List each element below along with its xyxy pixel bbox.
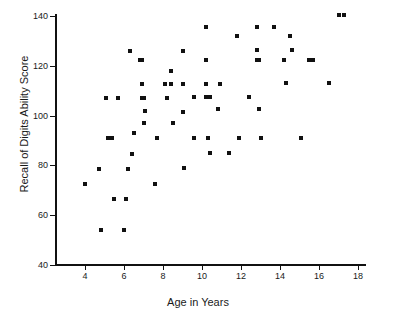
y-tick-label: 120 bbox=[33, 62, 48, 71]
data-point bbox=[165, 96, 169, 100]
data-point bbox=[110, 136, 114, 140]
scatter-plot-figure: 406080100120140 4681012141618 Recall of … bbox=[0, 0, 396, 322]
data-point bbox=[169, 82, 173, 86]
x-tick-mark bbox=[124, 266, 125, 270]
data-point bbox=[204, 82, 208, 86]
data-point bbox=[140, 82, 144, 86]
data-point bbox=[128, 49, 132, 53]
data-point bbox=[153, 182, 157, 186]
x-tick-mark bbox=[358, 266, 359, 270]
x-tick-label: 4 bbox=[73, 272, 97, 281]
data-point bbox=[192, 136, 196, 140]
data-point bbox=[171, 121, 175, 125]
data-points-layer bbox=[55, 14, 365, 265]
data-point bbox=[255, 48, 259, 52]
data-point bbox=[163, 82, 167, 86]
data-point bbox=[132, 131, 136, 135]
data-point bbox=[227, 151, 231, 155]
x-tick-label: 10 bbox=[190, 272, 214, 281]
x-tick-mark bbox=[163, 266, 164, 270]
data-point bbox=[257, 58, 261, 62]
data-point bbox=[208, 95, 212, 99]
data-point bbox=[235, 34, 239, 38]
data-point bbox=[99, 228, 103, 232]
y-tick-label: 40 bbox=[38, 261, 48, 270]
data-point bbox=[311, 58, 315, 62]
x-tick-mark bbox=[241, 266, 242, 270]
data-point bbox=[255, 25, 259, 29]
data-point bbox=[247, 95, 251, 99]
data-point bbox=[218, 82, 222, 86]
data-point bbox=[122, 228, 126, 232]
data-point bbox=[272, 25, 276, 29]
data-point bbox=[208, 151, 212, 155]
data-point bbox=[142, 96, 146, 100]
x-tick-label: 18 bbox=[346, 272, 370, 281]
data-point bbox=[83, 182, 87, 186]
y-tick-label: 140 bbox=[33, 12, 48, 21]
y-tick-label: 80 bbox=[38, 161, 48, 170]
data-point bbox=[155, 136, 159, 140]
data-point bbox=[237, 136, 241, 140]
data-point bbox=[140, 58, 144, 62]
data-point bbox=[206, 136, 210, 140]
x-tick-label: 8 bbox=[151, 272, 175, 281]
x-tick-mark bbox=[202, 266, 203, 270]
data-point bbox=[104, 96, 108, 100]
data-point bbox=[204, 58, 208, 62]
data-point bbox=[342, 13, 346, 17]
data-point bbox=[124, 197, 128, 201]
data-point bbox=[288, 34, 292, 38]
data-point bbox=[327, 81, 331, 85]
data-point bbox=[259, 136, 263, 140]
x-tick-mark bbox=[85, 266, 86, 270]
data-point bbox=[97, 167, 101, 171]
data-point bbox=[182, 166, 186, 170]
data-point bbox=[130, 152, 134, 156]
data-point bbox=[216, 107, 220, 111]
data-point bbox=[181, 49, 185, 53]
x-tick-mark bbox=[280, 266, 281, 270]
data-point bbox=[284, 81, 288, 85]
data-point bbox=[290, 48, 294, 52]
data-point bbox=[126, 167, 130, 171]
data-point bbox=[181, 110, 185, 114]
x-tick-label: 16 bbox=[307, 272, 331, 281]
data-point bbox=[169, 69, 173, 73]
data-point bbox=[143, 109, 147, 113]
y-tick-label: 60 bbox=[38, 211, 48, 220]
x-tick-label: 14 bbox=[268, 272, 292, 281]
data-point bbox=[112, 197, 116, 201]
data-point bbox=[116, 96, 120, 100]
y-axis-title: Recall of Digits Ability Score bbox=[18, 24, 30, 224]
plot-area bbox=[55, 14, 365, 265]
x-axis-title: Age in Years bbox=[0, 296, 396, 308]
data-point bbox=[257, 107, 261, 111]
data-point bbox=[142, 121, 146, 125]
x-tick-mark bbox=[319, 266, 320, 270]
data-point bbox=[181, 82, 185, 86]
y-tick-label: 100 bbox=[33, 112, 48, 121]
y-tick-mark bbox=[50, 265, 55, 266]
x-tick-label: 12 bbox=[229, 272, 253, 281]
data-point bbox=[299, 136, 303, 140]
data-point bbox=[337, 13, 341, 17]
data-point bbox=[204, 25, 208, 29]
data-point bbox=[282, 58, 286, 62]
data-point bbox=[192, 95, 196, 99]
x-tick-label: 6 bbox=[112, 272, 136, 281]
